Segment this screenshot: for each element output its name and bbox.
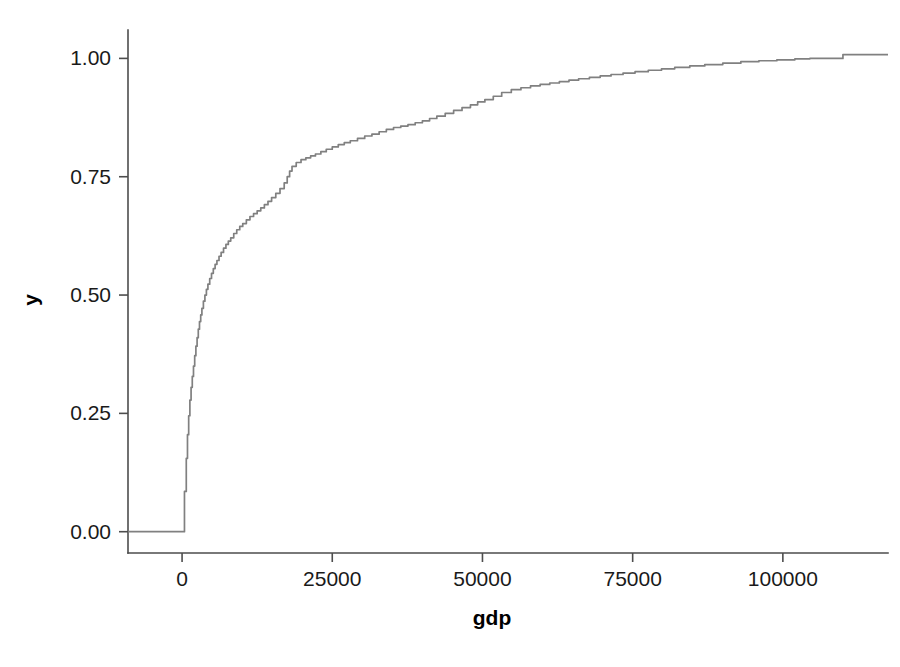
y-tick-label: 0.00 <box>70 520 111 543</box>
y-tick-label: 1.00 <box>70 46 111 69</box>
y-tick-label: 0.50 <box>70 283 111 306</box>
x-axis-title: gdp <box>473 606 511 629</box>
ecdf-plot: 0.000.250.500.751.00 0250005000075000100… <box>0 0 900 667</box>
y-axis-title: y <box>19 294 42 306</box>
x-tick-label: 25000 <box>303 567 361 590</box>
y-axis-ticks: 0.000.250.500.751.00 <box>70 46 128 542</box>
x-tick-label: 100000 <box>748 567 818 590</box>
chart-figure: 0.000.250.500.751.00 0250005000075000100… <box>0 0 900 667</box>
y-tick-label: 0.25 <box>70 401 111 424</box>
y-tick-label: 0.75 <box>70 165 111 188</box>
x-tick-label: 50000 <box>453 567 511 590</box>
x-tick-label: 0 <box>176 567 188 590</box>
ecdf-curve <box>128 55 888 532</box>
x-axis-ticks: 0250005000075000100000 <box>176 553 818 590</box>
x-tick-label: 75000 <box>603 567 661 590</box>
